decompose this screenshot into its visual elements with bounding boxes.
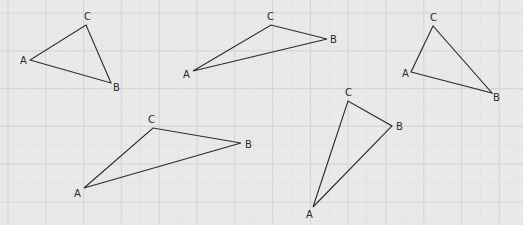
triangle-outline [313,101,392,207]
vertex-label-c: C [84,11,91,22]
vertex-label-a: A [183,69,190,80]
vertex-label-a: A [20,55,27,66]
vertex-label-c: C [267,11,274,22]
vertex-label-c: C [430,12,437,23]
vertex-label-c: C [345,87,352,98]
vertex-label-b: B [245,139,252,150]
vertex-label-b: B [113,82,120,93]
vertex-label-a: A [402,68,409,79]
triangle-outline [84,128,241,188]
triangle-outline [411,26,492,93]
triangles-group: ABCABCABCABCABC [20,11,500,220]
triangle-3: ABC [402,12,500,103]
vertex-label-a: A [74,188,81,199]
vertex-label-a: A [306,209,313,220]
vertex-label-b: B [396,121,403,132]
triangle-diagram: ABCABCABCABCABC [0,0,523,225]
triangle-outline [30,25,111,83]
triangle-1: ABC [20,11,120,93]
vertex-label-c: C [148,114,155,125]
triangle-5: ABC [306,87,403,220]
vertex-label-b: B [330,34,337,45]
vertex-label-b: B [493,92,500,103]
